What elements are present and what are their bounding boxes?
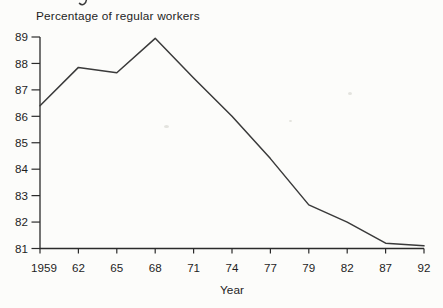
scan-speck [289, 120, 292, 122]
y-tick-label: 81 [15, 242, 28, 255]
x-tick-label: 62 [72, 261, 85, 274]
scan-artifact [80, 0, 87, 5]
x-tick-label: 77 [264, 261, 277, 274]
x-tick-label: 79 [302, 261, 315, 274]
x-tick-label: 74 [226, 261, 239, 274]
x-tick-label: 1959 [31, 261, 57, 274]
data-line [40, 38, 424, 246]
x-tick-label: 87 [379, 261, 392, 274]
chart-title: Percentage of regular workers [36, 9, 200, 23]
axes-group: 8182838485868788891959626568717477798287… [15, 30, 430, 273]
y-tick-label: 82 [15, 215, 28, 228]
y-tick-label: 86 [15, 110, 28, 123]
x-tick-label: 92 [418, 261, 431, 274]
x-tick-label: 82 [341, 261, 354, 274]
x-tick-label: 65 [110, 261, 123, 274]
plot-svg: Percentage of regular workers Year 81828… [0, 0, 443, 308]
axis-lines [40, 37, 424, 249]
x-tick-label: 71 [187, 261, 200, 274]
y-tick-label: 84 [15, 162, 28, 175]
y-tick-label: 87 [15, 83, 28, 96]
y-tick-label: 83 [15, 189, 28, 202]
scanned-chart-page: Percentage of regular workers Year 81828… [0, 0, 443, 308]
x-axis-title: Year [220, 283, 244, 297]
scan-speck [348, 92, 352, 95]
y-tick-label: 85 [15, 136, 28, 149]
scan-speck [164, 125, 169, 128]
y-tick-label: 89 [15, 30, 28, 43]
y-tick-label: 88 [15, 57, 28, 70]
x-tick-label: 68 [149, 261, 162, 274]
